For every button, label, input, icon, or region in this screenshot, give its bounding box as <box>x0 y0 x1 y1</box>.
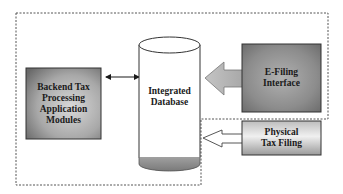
database-line-2: Database <box>151 97 188 108</box>
backend-line-4: Modules <box>46 115 81 126</box>
backend-line-2: Processing <box>42 93 85 104</box>
database-line-1: Integrated <box>148 86 191 97</box>
backend-line-3: Application <box>40 104 88 115</box>
efiling-interface-label: E-Filing Interface <box>242 44 321 112</box>
physical-line-1: Physical <box>265 127 299 138</box>
efiling-line-1: E-Filing <box>265 67 298 78</box>
database-label: Integrated Database <box>139 84 200 110</box>
backend-line-1: Backend Tax <box>37 82 90 93</box>
efiling-line-2: Interface <box>263 78 300 89</box>
efiling-to-database-arrow <box>205 62 243 95</box>
physical-line-2: Tax Filing <box>261 138 302 149</box>
physical-tax-filing-label: Physical Tax Filing <box>242 121 321 155</box>
backend-modules-label: Backend Tax Processing Application Modul… <box>26 68 101 139</box>
physical-to-database-arrow <box>203 130 243 147</box>
